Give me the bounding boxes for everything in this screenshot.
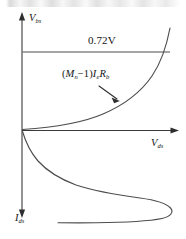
- vds-axis-label: Vds: [151, 138, 163, 149]
- vbs-axis-arrowhead-icon: [19, 12, 25, 21]
- formula-r-symbol: R: [99, 68, 106, 79]
- formula-r-subscript: b: [106, 73, 109, 80]
- formula-m-subscript: n: [74, 73, 77, 80]
- vds-axis-arrowhead-icon: [171, 127, 180, 133]
- formula-minus-one: −1): [78, 68, 93, 79]
- formula-i-subscript: e: [96, 73, 99, 80]
- ids-axis-label: Ids: [15, 213, 24, 224]
- vbs-axis-label: Vbs: [29, 13, 41, 24]
- formula-callout-arrow-icon: [99, 86, 120, 103]
- snapback-iv-curve: [23, 132, 172, 223]
- figure-container: Vbs Vds Ids 0.72V (Mn−1)IeRb: [0, 0, 186, 239]
- turn-on-voltage-label: 0.72V: [88, 35, 116, 46]
- formula-annotation: (Mn−1)IeRb: [62, 69, 109, 80]
